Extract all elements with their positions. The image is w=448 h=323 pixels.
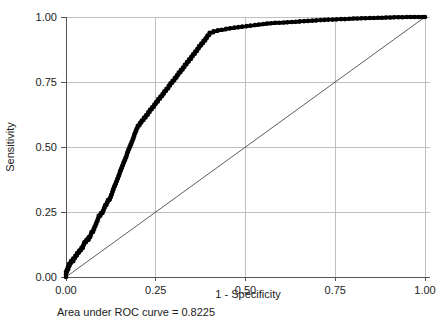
roc-data-point: [207, 31, 212, 36]
roc-data-point: [396, 15, 401, 20]
y-tick-label: 0.25: [36, 206, 57, 218]
roc-data-point: [314, 18, 319, 23]
roc-data-point: [273, 20, 278, 25]
y-tick-label: 0.50: [36, 141, 57, 153]
roc-data-point: [256, 22, 261, 27]
roc-data-point: [339, 17, 344, 22]
roc-data-point: [343, 17, 348, 22]
y-tick-label: 0.00: [36, 271, 57, 283]
roc-data-point: [376, 15, 381, 20]
roc-data-point: [326, 17, 331, 22]
roc-data-point: [285, 20, 290, 25]
roc-data-point: [367, 16, 372, 21]
y-axis-title: Sensitivity: [4, 122, 16, 172]
x-tick-label: 1.00: [414, 284, 435, 296]
roc-data-point: [293, 19, 298, 24]
roc-data-point: [302, 19, 307, 24]
roc-data-point: [310, 18, 315, 23]
auc-caption: Area under ROC curve = 0.8225: [57, 306, 215, 318]
roc-data-point: [347, 17, 352, 22]
roc-data-point: [392, 15, 397, 20]
roc-data-point: [240, 24, 245, 29]
roc-data-point: [334, 17, 339, 22]
x-tick-label: 0.25: [145, 284, 166, 296]
roc-data-point: [297, 19, 302, 24]
roc-data-point: [244, 24, 249, 29]
roc-data-point: [400, 15, 405, 20]
roc-curve-chart: 0.000.250.500.751.00 0.000.250.500.751.0…: [0, 0, 448, 323]
roc-data-point: [236, 25, 241, 30]
roc-data-point: [216, 28, 221, 33]
roc-data-point: [248, 23, 253, 28]
roc-data-point: [318, 18, 323, 23]
roc-data-point: [265, 21, 270, 26]
y-tick-label: 0.75: [36, 76, 57, 88]
roc-data-point: [363, 16, 368, 21]
roc-data-point: [351, 16, 356, 21]
roc-data-point: [322, 18, 327, 23]
roc-data-point: [261, 22, 266, 27]
roc-data-point: [417, 15, 422, 20]
roc-data-point: [388, 15, 393, 20]
roc-data-point: [290, 20, 295, 25]
roc-data-point: [380, 15, 385, 20]
roc-data-point: [277, 20, 282, 25]
roc-data-point: [423, 15, 428, 20]
x-tick-label: 0.00: [55, 284, 76, 296]
roc-data-point: [384, 15, 389, 20]
y-tick-label: 1.00: [36, 11, 57, 23]
roc-data-point: [412, 15, 417, 20]
x-axis-title: 1 - Specificity: [215, 288, 281, 300]
roc-data-point: [404, 15, 409, 20]
roc-data-point: [306, 19, 311, 24]
roc-data-point: [269, 21, 274, 26]
roc-data-point: [281, 20, 286, 25]
roc-data-point: [220, 27, 225, 32]
roc-data-point: [232, 25, 237, 30]
roc-data-point: [355, 16, 360, 21]
x-tick-label: 0.75: [325, 284, 346, 296]
roc-data-point: [211, 29, 216, 34]
roc-data-point: [330, 17, 335, 22]
roc-data-point: [228, 26, 233, 31]
roc-data-point: [371, 16, 376, 21]
roc-data-point: [224, 26, 229, 31]
roc-data-point: [253, 23, 258, 28]
roc-data-point: [408, 15, 413, 20]
roc-data-point: [359, 16, 364, 21]
